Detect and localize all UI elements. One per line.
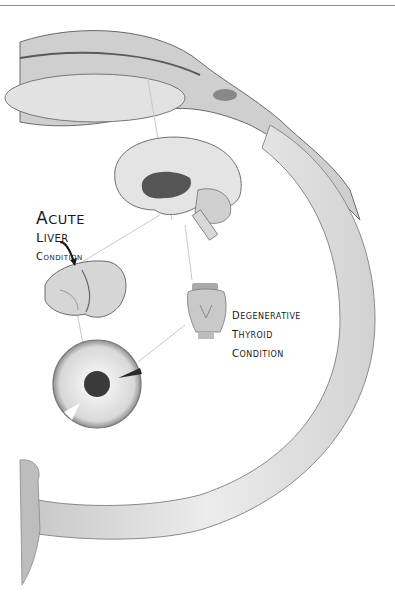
liver-label: ACUTE LIVER CONDITION xyxy=(36,210,85,263)
thyroid xyxy=(187,283,226,339)
label-text: ONDITION xyxy=(43,254,82,262)
label-text: HYROID xyxy=(239,331,273,340)
label-text: EGENERATIVE xyxy=(240,312,301,321)
label-text: IVER xyxy=(44,233,69,244)
liver xyxy=(45,261,126,317)
thyroid-label: DEGENERATIVE THYROID CONDITION xyxy=(232,306,301,360)
brain xyxy=(115,137,242,240)
iris xyxy=(53,340,142,428)
label-cap: D xyxy=(232,310,240,321)
label-cap: L xyxy=(36,230,44,245)
illustration xyxy=(0,0,395,595)
label-cap: A xyxy=(36,208,48,228)
label-cap: T xyxy=(232,329,239,340)
label-text: ONDITION xyxy=(239,350,283,359)
label-text: CUTE xyxy=(48,212,85,227)
